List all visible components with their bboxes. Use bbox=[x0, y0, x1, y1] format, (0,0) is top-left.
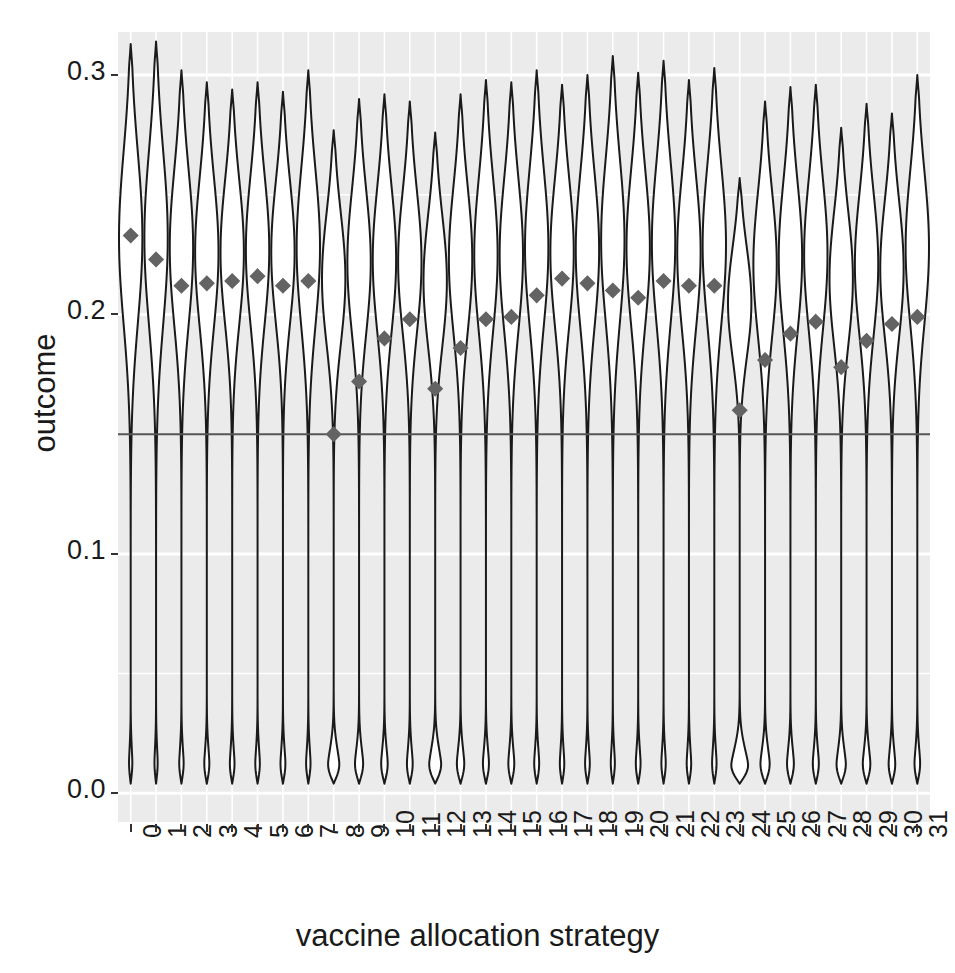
y-tick-label: 0.0 bbox=[67, 776, 106, 803]
x-tick-label: 10 bbox=[393, 810, 418, 838]
y-tick-mark bbox=[111, 313, 118, 315]
x-tick-mark bbox=[815, 824, 817, 832]
x-tick-label: 21 bbox=[673, 810, 698, 838]
x-tick-label: 31 bbox=[926, 810, 951, 838]
x-tick-mark bbox=[612, 824, 614, 832]
x-tick-mark bbox=[916, 824, 918, 832]
mean-marker bbox=[733, 403, 747, 417]
x-tick-label: 27 bbox=[825, 810, 850, 838]
y-axis-title-wrap: outcome bbox=[0, 0, 55, 790]
x-tick-label: 29 bbox=[876, 810, 901, 838]
y-tick-label: 0.1 bbox=[67, 537, 106, 564]
x-tick-label: 17 bbox=[571, 810, 596, 838]
x-tick-mark bbox=[764, 824, 766, 832]
x-tick-mark bbox=[231, 824, 233, 832]
x-tick-mark bbox=[257, 824, 259, 832]
y-tick-mark bbox=[111, 553, 118, 555]
plot-canvas bbox=[118, 32, 930, 822]
x-tick-label: 22 bbox=[698, 810, 723, 838]
x-tick-mark bbox=[663, 824, 665, 832]
x-tick-label: 30 bbox=[901, 810, 926, 838]
x-tick-label: 28 bbox=[850, 810, 875, 838]
x-tick-mark bbox=[713, 824, 715, 832]
x-tick-label: 9 bbox=[368, 824, 393, 838]
plot-panel bbox=[118, 32, 930, 822]
x-tick-mark bbox=[485, 824, 487, 832]
x-tick-mark bbox=[206, 824, 208, 832]
violin-chart-figure: outcome 0.00.10.20.3 0123456789101112131… bbox=[0, 0, 955, 973]
x-tick-mark bbox=[130, 824, 132, 832]
x-tick-label: 8 bbox=[343, 824, 368, 838]
x-tick-label: 4 bbox=[241, 824, 266, 838]
x-tick-mark bbox=[688, 824, 690, 832]
x-tick-mark bbox=[155, 824, 157, 832]
x-tick-mark bbox=[282, 824, 284, 832]
x-tick-label: 5 bbox=[267, 824, 292, 838]
x-tick-label: 11 bbox=[419, 812, 444, 838]
x-tick-mark bbox=[409, 824, 411, 832]
x-tick-mark bbox=[789, 824, 791, 832]
x-tick-label: 24 bbox=[749, 810, 774, 838]
x-tick-mark bbox=[180, 824, 182, 832]
x-tick-mark bbox=[307, 824, 309, 832]
x-tick-label: 14 bbox=[495, 810, 520, 838]
x-tick-mark bbox=[358, 824, 360, 832]
y-tick-label: 0.3 bbox=[67, 58, 106, 85]
x-tick-label: 3 bbox=[216, 824, 241, 838]
x-tick-mark bbox=[510, 824, 512, 832]
x-tick-mark bbox=[840, 824, 842, 832]
y-tick-mark bbox=[111, 74, 118, 76]
x-tick-label: 1 bbox=[165, 824, 190, 838]
x-tick-label: 18 bbox=[596, 810, 621, 838]
x-tick-mark bbox=[333, 824, 335, 832]
x-tick-label: 6 bbox=[292, 824, 317, 838]
x-tick-mark bbox=[891, 824, 893, 832]
mean-marker bbox=[428, 382, 442, 396]
y-tick-label: 0.2 bbox=[67, 297, 106, 324]
y-tick-mark bbox=[111, 792, 118, 794]
x-tick-mark bbox=[866, 824, 868, 832]
y-axis-title: outcome bbox=[27, 183, 63, 603]
x-tick-mark bbox=[739, 824, 741, 832]
x-tick-mark bbox=[383, 824, 385, 832]
mean-marker bbox=[352, 375, 366, 389]
x-tick-label: 7 bbox=[317, 824, 342, 838]
x-tick-label: 23 bbox=[723, 810, 748, 838]
x-tick-label: 12 bbox=[444, 810, 469, 838]
x-tick-label: 0 bbox=[140, 824, 165, 838]
x-tick-label: 20 bbox=[647, 810, 672, 838]
x-tick-label: 13 bbox=[470, 810, 495, 838]
x-tick-mark bbox=[586, 824, 588, 832]
x-axis-title: vaccine allocation strategy bbox=[0, 918, 955, 954]
x-tick-label: 15 bbox=[520, 810, 545, 838]
x-tick-mark bbox=[536, 824, 538, 832]
mean-marker bbox=[327, 427, 341, 441]
x-tick-label: 26 bbox=[799, 810, 824, 838]
x-tick-label: 19 bbox=[622, 810, 647, 838]
x-tick-label: 16 bbox=[546, 810, 571, 838]
x-tick-label: 2 bbox=[190, 824, 215, 838]
x-tick-mark bbox=[460, 824, 462, 832]
x-tick-label: 25 bbox=[774, 810, 799, 838]
x-tick-mark bbox=[561, 824, 563, 832]
x-tick-mark bbox=[434, 824, 436, 832]
x-tick-mark bbox=[637, 824, 639, 832]
